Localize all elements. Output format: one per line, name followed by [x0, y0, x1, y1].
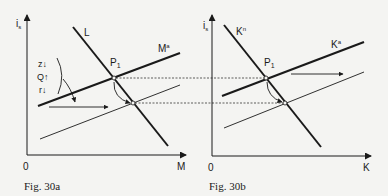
y-axis-label: is	[16, 18, 21, 30]
p1-label: P1	[110, 57, 121, 69]
ma-curve	[38, 53, 180, 106]
equilibrium-move-arrow	[267, 82, 282, 102]
equilibrium-p1	[264, 76, 268, 80]
x-axis-label: K	[363, 162, 370, 173]
z-annotation: z↓	[38, 59, 47, 69]
economic-diagrams: is 0 M L Ma P1 z↓ Q↑ r↓ Fig. 30a is 0 K …	[0, 0, 388, 196]
y-axis-label: is	[203, 20, 208, 32]
figure-caption: Fig. 30b	[209, 180, 246, 192]
ka-shifted-curve	[224, 72, 364, 128]
p1-label: P1	[264, 57, 275, 69]
ma-shifted-curve	[40, 85, 180, 139]
x-axis-label: M	[177, 161, 185, 172]
diagram-canvas: is 0 M L Ma P1 z↓ Q↑ r↓ Fig. 30a is 0 K …	[0, 0, 388, 196]
equilibrium-move-arrow	[114, 82, 130, 103]
origin-label: 0	[23, 161, 29, 172]
figure-30b: is 0 K Kn Ka P1 Fig. 30b	[203, 15, 371, 192]
equilibrium-p2	[283, 101, 287, 105]
kn-curve	[224, 25, 321, 147]
l-curve-label: L	[84, 27, 90, 38]
figure-caption: Fig. 30a	[24, 180, 60, 192]
bracket	[57, 58, 62, 94]
ma-curve-label: Ma	[158, 43, 170, 54]
origin-label: 0	[208, 162, 214, 173]
bracket-arrow	[63, 79, 75, 102]
ka-curve-label: Ka	[331, 39, 342, 50]
kn-curve-label: Kn	[236, 26, 246, 37]
q-annotation: Q↑	[37, 72, 49, 82]
equilibrium-p2	[131, 101, 135, 105]
r-annotation: r↓	[39, 85, 47, 95]
equilibrium-p1	[112, 76, 116, 80]
figure-30a: is 0 M L Ma P1 z↓ Q↑ r↓ Fig. 30a	[16, 15, 186, 192]
